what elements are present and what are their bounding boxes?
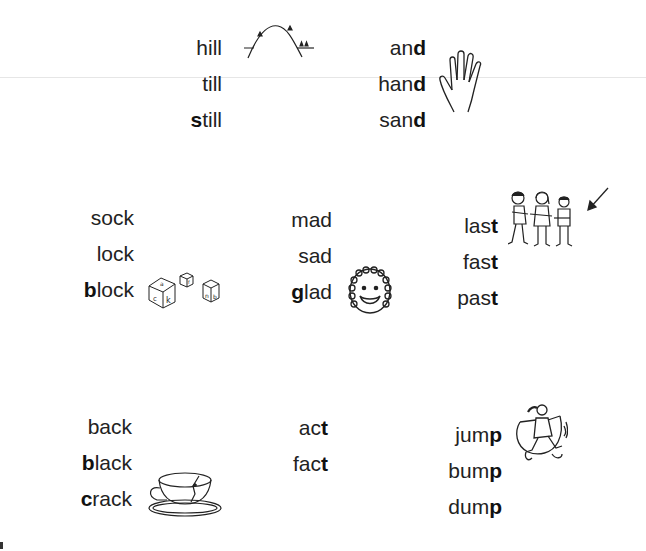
- arrow-icon: [586, 186, 610, 212]
- word: black: [70, 445, 132, 481]
- word: back: [70, 409, 132, 445]
- svg-text:b: b: [213, 293, 217, 300]
- word: sock: [70, 200, 134, 236]
- word-list-ast: last fast past: [440, 208, 498, 316]
- word: past: [440, 280, 498, 316]
- svg-text:f: f: [188, 279, 190, 285]
- hill-icon: [244, 24, 316, 64]
- word-list-and: and hand sand: [360, 30, 426, 138]
- word: act: [280, 410, 328, 446]
- word: still: [170, 102, 222, 138]
- word: block: [70, 272, 134, 308]
- faint-horizontal-rule: [0, 77, 646, 78]
- svg-text:c: c: [153, 295, 157, 303]
- cracked-cup-icon: [145, 470, 225, 520]
- word-list-ack: back black crack: [70, 409, 132, 517]
- word-list-ill: hill till still: [170, 30, 222, 138]
- word: fast: [440, 244, 498, 280]
- word: dump: [440, 489, 502, 525]
- blocks-icon: c k a f n b: [147, 272, 225, 310]
- word-list-ump: jump bump dump: [440, 417, 502, 525]
- smiling-face-icon: [346, 264, 394, 316]
- svg-text:n: n: [205, 292, 209, 299]
- hand-icon: [438, 50, 482, 114]
- svg-text:k: k: [166, 296, 171, 305]
- word: fact: [280, 446, 328, 482]
- jump-rope-girl-icon: [512, 402, 568, 466]
- svg-text:a: a: [160, 280, 164, 287]
- page-corner-mark: [0, 542, 3, 549]
- word: jump: [440, 417, 502, 453]
- word: sad: [270, 238, 332, 274]
- word: sand: [360, 102, 426, 138]
- word: and: [360, 30, 426, 66]
- word-list-ad: mad sad glad: [270, 202, 332, 310]
- word: last: [440, 208, 498, 244]
- word: glad: [270, 274, 332, 310]
- word: hill: [170, 30, 222, 66]
- word: crack: [70, 481, 132, 517]
- word: hand: [360, 66, 426, 102]
- word: bump: [440, 453, 502, 489]
- word-list-act: act fact: [280, 410, 328, 482]
- children-line-icon: [508, 190, 578, 252]
- word: mad: [270, 202, 332, 238]
- word: lock: [70, 236, 134, 272]
- word-list-ock: sock lock block: [70, 200, 134, 308]
- word: till: [170, 66, 222, 102]
